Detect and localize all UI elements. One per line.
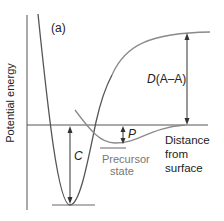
panel-label: (a) <box>51 22 66 34</box>
dissociation-curve <box>112 32 210 75</box>
chemisorption-energy-label: C <box>74 150 83 162</box>
potential-energy-diagram <box>0 0 224 221</box>
precursor-state-label: Precursor state <box>102 153 150 177</box>
c-arrow-up-head <box>68 126 73 133</box>
c-arrow-down-head <box>68 197 73 204</box>
chemisorption-curve <box>38 14 112 205</box>
dissociation-energy-label: D(A–A) <box>147 73 186 85</box>
p-arrow-up-head <box>121 126 126 132</box>
y-axis-label: Potential energy <box>4 63 16 143</box>
x-axis-label: Distance from surface <box>165 133 210 175</box>
precursor-energy-label: P <box>128 128 136 140</box>
d-arrow-down-head <box>185 118 190 125</box>
d-arrow-up-head <box>185 33 190 40</box>
